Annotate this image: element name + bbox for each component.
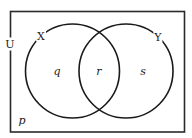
region-x-only-label: q [53,66,60,77]
universe-label: U [5,38,14,51]
region-y-only-label: s [140,66,146,77]
set-y-label: Y [153,32,162,43]
region-outside-label: p [18,115,25,126]
set-x-label: X [36,31,46,42]
region-intersection-label: r [96,66,101,77]
